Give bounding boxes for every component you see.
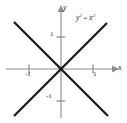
equation-x-exponent: 2 (93, 13, 96, 18)
x-axis-label: x (118, 64, 122, 72)
x-axis-tick-label-neg1: -1 (25, 71, 31, 78)
plot-canvas (0, 0, 127, 123)
equation-annotation: y2 = x2 (76, 14, 95, 22)
x-axis-tick-label-pos1: 1 (93, 71, 97, 78)
math-figure: y2 = x2 -1 1 1 -1 x y (0, 0, 127, 123)
y-axis-tick-label-neg1: -1 (46, 93, 52, 100)
y-axis-tick-label-pos1: 1 (50, 31, 54, 38)
y-axis-label: y (63, 4, 67, 12)
